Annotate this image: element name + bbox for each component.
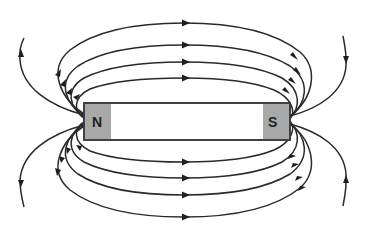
magnet-body [84,103,290,140]
field-line-outer-bottom-left [20,125,84,207]
arrow-up-right-icon [298,186,306,191]
arrow-right-icon [182,214,190,221]
arrow-down-right-icon [293,67,301,75]
arrow-right-icon [182,192,190,199]
arrow-down-right-icon [282,87,290,94]
field-line-outer-top-right [290,36,346,116]
arrow-right-icon [182,159,190,166]
arrow-up-right-icon [288,154,296,159]
south-pole-label: S [268,114,277,130]
arrow-right-icon [182,75,190,82]
arrow-up-icon [343,175,349,183]
field-line-top-1 [58,23,311,116]
arrow-right-icon [182,59,190,66]
arrow-down-icon [343,56,349,64]
arrow-up-right-icon [295,176,303,181]
arrow-right-icon [182,42,190,49]
arrow-right-icon [182,175,190,182]
bar-magnet: N S [84,103,290,140]
north-pole-label: N [92,114,102,130]
arrow-down-right-icon [290,52,298,60]
bar-magnet-field-diagram: N S [0,0,366,237]
field-line-outer-top-left [20,38,84,115]
arrow-down-left-icon [66,147,71,154]
arrow-down-left-icon [55,168,61,176]
arrow-down-left-icon [76,145,82,151]
arrow-down-left-icon [59,156,65,163]
arrow-right-icon [182,20,190,27]
arrow-down-icon [18,180,24,187]
arrow-up-icon [18,49,24,57]
